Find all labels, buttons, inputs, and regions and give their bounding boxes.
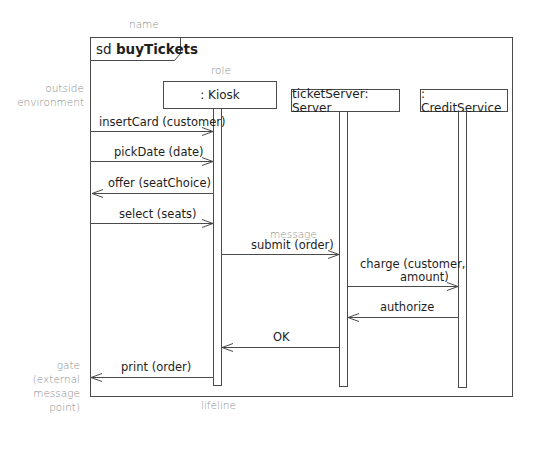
lifeline-credit-activation (458, 111, 467, 388)
annotation-gate-line3: message (20, 388, 80, 399)
msg-select-label: select (seats) (119, 209, 196, 221)
annotation-role: role (211, 65, 231, 76)
msg-insertCard-label: insertCard (customer) (99, 117, 225, 129)
lifeline-kiosk-activation (213, 108, 222, 386)
lifeline-server-head[interactable]: ticketServer: Server (291, 89, 400, 112)
msg-authorize-label: authorize (380, 302, 434, 314)
frame-name: buyTickets (116, 41, 198, 57)
annotation-lifeline: lifeline (201, 400, 236, 411)
annotation-name: name (129, 19, 159, 30)
annotation-gate-line1: gate (20, 360, 80, 371)
annotation-gate-line4: point) (20, 402, 80, 413)
frame-title: sd buyTickets (96, 41, 198, 57)
frame-keyword: sd (96, 41, 112, 57)
msg-submit-label: submit (order) (251, 240, 334, 252)
lifeline-server-activation (339, 111, 348, 387)
lifeline-credit-head[interactable]: : CreditService (420, 89, 508, 112)
annotation-outside-line2: environment (10, 97, 84, 108)
msg-print-label: print (order) (121, 362, 191, 374)
annotation-outside-line1: outside (20, 83, 84, 94)
lifeline-kiosk-head[interactable]: : Kiosk (163, 81, 277, 109)
msg-charge-label-line1: charge (customer, (360, 259, 466, 271)
annotation-gate-line2: (external (20, 374, 80, 385)
msg-offer-label: offer (seatChoice) (108, 178, 211, 190)
sequence-diagram: sd buyTickets name role outside environm… (0, 0, 538, 452)
msg-pickDate-label: pickDate (date) (114, 147, 204, 159)
msg-charge-label-line2: amount) (400, 272, 449, 284)
msg-ok-label: OK (273, 332, 290, 344)
